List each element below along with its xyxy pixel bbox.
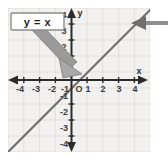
y-tick-label-neg3: -3 — [60, 123, 68, 133]
x-tick-label-1: 1 — [85, 84, 90, 94]
y-axis-label: y — [77, 8, 82, 18]
x-tick-label-2: 2 — [100, 84, 105, 94]
x-tick-label-4: 4 — [132, 84, 137, 94]
callout-label: y = x — [24, 16, 52, 28]
y-tick-label-neg2: -2 — [60, 107, 68, 117]
callout-box: y = x — [11, 13, 64, 30]
x-tick-label-neg4: -4 — [16, 84, 24, 94]
coordinate-plane-svg: -4 -3 -2 -1 1 2 3 4 4 3 2 1 -1 -2 -3 -4 … — [0, 0, 168, 160]
y-tick-label-neg1: -1 — [60, 91, 68, 101]
graph-figure: -4 -3 -2 -1 1 2 3 4 4 3 2 1 -1 -2 -3 -4 … — [0, 0, 168, 160]
x-axis-label: x — [136, 66, 141, 76]
origin-label: O — [75, 84, 82, 94]
x-tick-label-3: 3 — [116, 84, 121, 94]
x-tick-label-neg2: -2 — [48, 84, 56, 94]
y-tick-label-neg4: -4 — [60, 139, 68, 149]
x-tick-label-neg3: -3 — [32, 84, 40, 94]
